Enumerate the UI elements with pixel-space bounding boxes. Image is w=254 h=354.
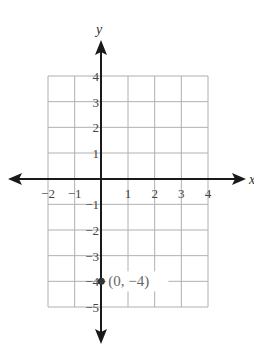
x-tick-labels: −2−11234 [41,186,212,201]
data-points: (0, −4) [98,271,169,291]
y-tick-label: −5 [85,300,99,315]
y-tick-label: −1 [85,197,99,212]
coordinate-plane: y x −2−11234 4321−1−2−3−4−5 (0, −4) [0,0,254,354]
y-tick-labels: 4321−1−2−3−4−5 [85,69,99,315]
y-tick-label: −4 [85,274,99,289]
data-point [98,278,105,285]
x-axis-label: x [248,172,254,187]
y-tick-label: 3 [93,95,100,110]
y-tick-label: 1 [93,146,100,161]
x-tick-label: −1 [68,186,82,201]
x-tick-label: −2 [41,186,55,201]
y-tick-label: −3 [85,249,99,264]
x-tick-label: 1 [125,186,132,201]
y-tick-label: −2 [85,223,99,238]
y-axis-label: y [94,22,103,37]
y-tick-label: 4 [93,69,100,84]
x-tick-label: 4 [205,186,212,201]
y-tick-label: 2 [93,120,100,135]
point-label: (0, −4) [108,273,149,290]
x-tick-label: 2 [151,186,158,201]
x-tick-label: 3 [178,186,185,201]
